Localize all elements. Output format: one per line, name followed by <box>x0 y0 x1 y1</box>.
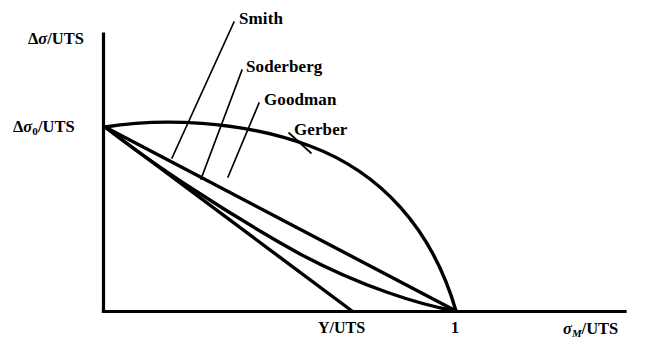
y-origin-rest: /UTS <box>38 117 75 136</box>
curve-label-gerber: Gerber <box>294 121 347 138</box>
curve-label-soderberg: Soderberg <box>246 58 322 75</box>
curve-label-smith: Smith <box>239 10 283 27</box>
haigh-diagram-plot <box>0 0 672 351</box>
curve-goodman <box>105 127 456 311</box>
x-axis-label: σM/UTS <box>563 321 618 339</box>
curve-soderberg <box>105 127 352 311</box>
y-origin-delta: Δ <box>13 117 23 136</box>
y-axis-sigma: σ <box>38 29 47 48</box>
y-axis-delta: Δ <box>28 29 38 48</box>
y-axis-label: Δσ/UTS <box>28 31 84 48</box>
y-origin-sigma: σ <box>23 117 32 136</box>
haigh-diagram-figure: Smith Soderberg Goodman Gerber Δσ/UTS Δσ… <box>0 0 672 351</box>
x-tick-label-yield: Y/UTS <box>318 320 365 336</box>
x-axis-subscript: M <box>572 327 582 339</box>
leader-line-goodman <box>228 103 259 177</box>
x-tick-label-one: 1 <box>451 320 459 336</box>
curve-label-goodman: Goodman <box>264 91 337 108</box>
x-axis-sigma: σ <box>563 319 572 338</box>
y-axis-rest: /UTS <box>47 29 84 48</box>
leader-line-smith <box>172 22 234 158</box>
y-axis-origin-tick-label: Δσ0/UTS <box>13 119 75 137</box>
x-axis-rest: /UTS <box>582 319 619 338</box>
